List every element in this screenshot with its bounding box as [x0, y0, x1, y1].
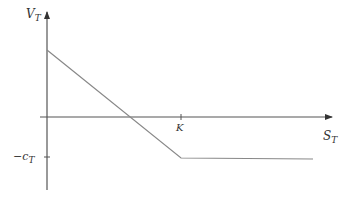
y-axis-label: VT	[26, 7, 42, 23]
diagram-svg: VT ST K −cT	[0, 0, 355, 198]
payoff-line	[47, 50, 313, 159]
x-axis-label: ST	[323, 129, 338, 145]
payoff-diagram: VT ST K −cT	[0, 0, 355, 198]
premium-label: −cT	[13, 150, 35, 165]
strike-label: K	[175, 122, 184, 133]
